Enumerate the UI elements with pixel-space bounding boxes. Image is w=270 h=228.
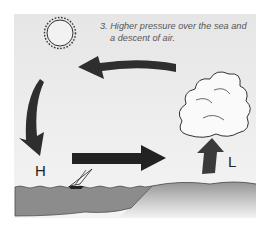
- sailboat-icon: [68, 169, 92, 189]
- high-pressure-label: H: [35, 162, 46, 179]
- arrow-upper-left-icon: [78, 56, 176, 79]
- caption-line-2: a descent of air.: [100, 32, 270, 44]
- low-pressure-label: L: [228, 153, 236, 170]
- sun-icon: [45, 18, 76, 49]
- arrow-descending-icon: [19, 79, 44, 156]
- caption: 3. Higher pressure over the sea and a de…: [100, 20, 270, 44]
- caption-line-1: 3. Higher pressure over the sea and: [100, 20, 270, 32]
- arrow-rising-icon: [197, 138, 224, 174]
- cloud-icon: [179, 72, 250, 137]
- arrow-surface-icon: [72, 145, 166, 171]
